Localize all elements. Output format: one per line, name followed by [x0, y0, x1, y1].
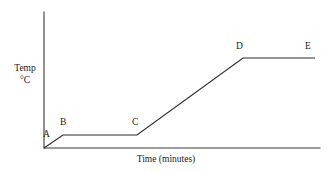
axes-group — [44, 12, 320, 148]
y-axis-label-line2: °C — [8, 75, 42, 87]
point-label-c: C — [132, 118, 138, 128]
x-axis-label: Time (minutes) — [104, 154, 228, 165]
point-label-b: B — [60, 118, 66, 128]
point-label-e: E — [305, 42, 311, 52]
point-label-d: D — [236, 42, 243, 52]
y-axis-label-line1: Temp — [8, 63, 42, 75]
point-label-a: A — [43, 130, 50, 140]
series-group — [44, 58, 315, 148]
temperature-curve — [44, 58, 315, 148]
y-axis-label: Temp °C — [8, 63, 42, 86]
chart-canvas — [0, 0, 328, 172]
heating-curve-chart: Temp °C Time (minutes) ABCDE — [0, 0, 328, 172]
